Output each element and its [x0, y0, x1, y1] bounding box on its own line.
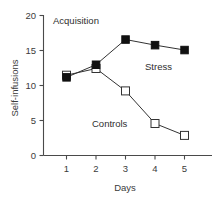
controls-point-day3 — [122, 87, 130, 95]
y-tick-label-5: 5 — [31, 115, 36, 126]
y-axis-title: Self-infusions — [9, 59, 20, 116]
series-label-stress: Stress — [145, 61, 172, 72]
line-chart: 20 15 10 5 0 1 2 3 4 5 Days Self-infusio… — [0, 0, 221, 209]
stress-point-day4 — [151, 41, 159, 49]
chart-figure: 20 15 10 5 0 1 2 3 4 5 Days Self-infusio… — [0, 0, 221, 209]
x-axis-title: Days — [114, 182, 136, 193]
controls-point-day5 — [181, 131, 189, 139]
x-tick-label-1: 1 — [64, 163, 69, 174]
x-tick-label-5: 5 — [182, 163, 187, 174]
stress-point-day2 — [92, 61, 100, 69]
stress-point-day1 — [63, 74, 71, 82]
y-tick-label-10: 10 — [25, 80, 36, 91]
y-tick-label-20: 20 — [25, 10, 36, 21]
series-label-controls: Controls — [92, 118, 128, 129]
x-tick-label-3: 3 — [123, 163, 128, 174]
x-tick-label-2: 2 — [93, 163, 98, 174]
x-tick-label-4: 4 — [152, 163, 157, 174]
y-tick-label-15: 15 — [25, 45, 36, 56]
stress-point-day5 — [181, 46, 189, 54]
y-tick-label-0: 0 — [31, 150, 36, 161]
stress-point-day3 — [122, 36, 130, 44]
panel-annotation-acquisition: Acquisition — [53, 15, 99, 26]
controls-point-day4 — [151, 120, 159, 128]
